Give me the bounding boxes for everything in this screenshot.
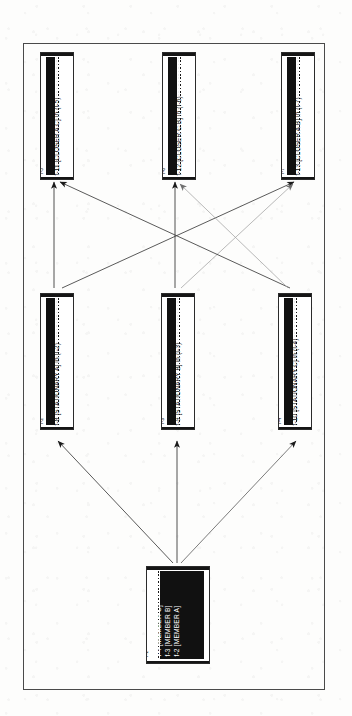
- root-line-member-c: f-4 [MEMBER C]: [156, 605, 163, 657]
- node-f-11[interactable]: I-5 f-11 [CLOSER A C] in (I-5): [40, 52, 74, 180]
- page-canvas: I-5 f-11 [CLOSER A C] in (I-5) I-6 f-12 …: [0, 0, 352, 716]
- node-label: f-11 [CLOSER A C] in (I-5): [54, 97, 60, 175]
- root-node-lines: f-4 [MEMBER C] f-3 [MEMBER B] f-2 [MEMBE…: [160, 571, 204, 659]
- node-f-13[interactable]: I-7 f-13 [CLOSER A B] in (I-7): [281, 52, 315, 180]
- node-f-9[interactable]: I-3 f-9 [STATIONARY B] in (I-3): [161, 293, 195, 430]
- node-label: f-9 [STATIONARY B] in (I-3): [175, 342, 181, 425]
- root-line-member-a: f-2 [MEMBER A]: [174, 606, 181, 657]
- node-id-badge: I-6: [162, 166, 167, 175]
- node-id-badge: I-1: [146, 649, 150, 658]
- root-line-member-b: f-3 [MEMBER B]: [165, 606, 172, 657]
- node-id-badge: I-2: [40, 416, 45, 425]
- node-label: f-8 [STATIONARY A] in (I-2): [54, 343, 60, 425]
- node-label: f-13 [CLOSER A B] in (I-7): [295, 97, 301, 175]
- node-label: f-12 [CLOSER C B] in (I-6): [176, 96, 182, 175]
- node-id-badge: I-4: [278, 416, 283, 425]
- node-f-12[interactable]: I-6 f-12 [CLOSER C B] in (I-6): [162, 52, 196, 180]
- node-f-8[interactable]: I-2 f-8 [STATIONARY A] in (I-2): [40, 293, 74, 430]
- node-id-badge: I-5: [40, 166, 45, 175]
- node-id-badge: I-7: [281, 166, 286, 175]
- node-root-members[interactable]: I-1 f-4 [MEMBER C] f-3 [MEMBER B] f-2 [M…: [146, 566, 210, 664]
- node-f-10[interactable]: I-4 f-10 [STATIONARY C] in (I-4): [278, 293, 312, 430]
- node-id-badge: I-3: [161, 416, 166, 425]
- node-label: f-10 [STATIONARY C] in (I-4): [292, 338, 298, 425]
